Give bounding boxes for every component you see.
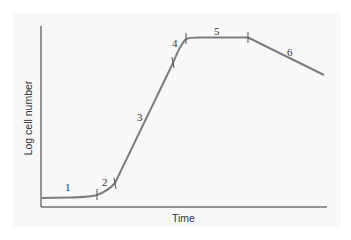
- phase-label-2: 2: [102, 176, 108, 188]
- x-axis-label: Time: [172, 212, 195, 224]
- growth-curve: [42, 38, 324, 199]
- phase-label-6: 6: [287, 46, 293, 58]
- phase-label-5: 5: [214, 25, 220, 37]
- y-axis-label: Log cell number: [22, 80, 34, 155]
- phase-label-4: 4: [172, 37, 178, 49]
- growth-curve-chart: 1 2 3 4 5 6 Time Log cell number: [0, 0, 351, 240]
- phase-label-3: 3: [137, 111, 143, 123]
- phase-label-1: 1: [65, 181, 71, 193]
